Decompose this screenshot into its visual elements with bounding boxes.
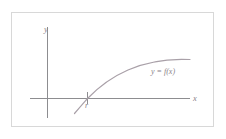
y-axis-label: y — [44, 25, 48, 34]
figure-container: y x r y = f(x) — [0, 0, 226, 139]
plot-canvas — [0, 0, 226, 139]
root-label: r — [85, 102, 88, 110]
x-axis-label: x — [193, 94, 197, 103]
curve-function-label: y = f(x) — [151, 68, 175, 76]
